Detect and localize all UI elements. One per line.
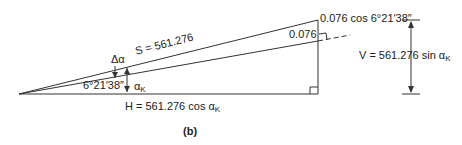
offset-label: 0.076 <box>289 29 317 40</box>
alpha-k-label: αK <box>134 81 146 94</box>
dashed-extension <box>318 35 350 41</box>
right-angle-mark-top <box>319 33 327 40</box>
vertical-distance-label: V = 561.276 sin αK <box>359 50 451 63</box>
right-angle-mark-bottom <box>310 87 318 94</box>
offset-cos-label: 0.076 cos 6°21′38″ <box>320 13 412 24</box>
delta-alpha-label: Δα <box>111 54 125 65</box>
figure-caption: (b) <box>183 126 197 137</box>
horizontal-distance-label: H = 561.276 cos αK <box>125 101 220 114</box>
slope-line-upper <box>19 20 318 94</box>
angle-label: 6°21′38″ <box>83 80 124 91</box>
slope-line-lower <box>19 41 318 94</box>
